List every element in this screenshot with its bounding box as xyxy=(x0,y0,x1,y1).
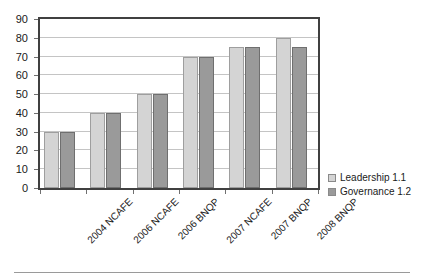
footer-divider xyxy=(14,272,410,273)
x-axis-tick-label: 2007 NCAFE xyxy=(224,196,273,245)
y-axis-tick-mark xyxy=(34,132,38,133)
bar xyxy=(153,94,168,188)
y-axis-tick-mark xyxy=(34,57,38,58)
y-axis-tick-mark xyxy=(34,113,38,114)
bar xyxy=(229,47,244,188)
chart-legend: Leadership 1.1Governance 1.2 xyxy=(328,171,420,199)
y-axis-tick-label: 70 xyxy=(16,51,28,62)
bar-group xyxy=(86,19,132,188)
y-axis-tick-label: 60 xyxy=(16,70,28,81)
bar xyxy=(183,57,198,188)
legend-entry[interactable]: Leadership 1.1 xyxy=(328,171,420,184)
grouped-bar-chart: 0102030405060708090 2004 NCAFE2006 NCAFE… xyxy=(0,0,422,278)
x-axis-tick-label: 2006 NCAFE xyxy=(131,196,180,245)
y-axis-tick-label: 50 xyxy=(16,89,28,100)
bar-group xyxy=(133,19,179,188)
y-axis-tick-label: 30 xyxy=(16,126,28,137)
y-axis-tick-label: 20 xyxy=(16,145,28,156)
legend-label: Leadership 1.1 xyxy=(340,172,406,183)
y-axis-tick-mark xyxy=(34,19,38,20)
x-axis-tick-label: 2007 BNQP xyxy=(269,196,315,242)
y-axis-tick-mark xyxy=(34,94,38,95)
bar xyxy=(276,38,291,188)
legend-entry[interactable]: Governance 1.2 xyxy=(328,185,420,198)
y-axis-tick-mark xyxy=(34,150,38,151)
y-axis-tick-label: 40 xyxy=(16,107,28,118)
bar xyxy=(199,57,214,188)
bar-group xyxy=(40,19,86,188)
bar-group xyxy=(225,19,271,188)
bar xyxy=(106,113,121,188)
bar-group xyxy=(179,19,225,188)
y-axis-tick-mark xyxy=(34,38,38,39)
bar xyxy=(137,94,152,188)
x-axis-tick-label: 2008 BNQP xyxy=(315,196,361,242)
x-axis-tick-label: 2006 BNQP xyxy=(176,196,222,242)
y-axis-tick-mark xyxy=(34,169,38,170)
x-axis: 2004 NCAFE2006 NCAFE2006 BNQP2007 NCAFE2… xyxy=(0,190,422,260)
bar xyxy=(90,113,105,188)
y-axis-tick-label: 10 xyxy=(16,164,28,175)
bar xyxy=(60,132,75,188)
legend-swatch-icon xyxy=(328,174,336,182)
bar-group xyxy=(272,19,318,188)
y-axis-tick-label: 80 xyxy=(16,32,28,43)
y-axis: 0102030405060708090 xyxy=(0,17,32,190)
bar xyxy=(245,47,260,188)
bars-layer xyxy=(40,19,318,188)
legend-swatch-icon xyxy=(328,188,336,196)
legend-label: Governance 1.2 xyxy=(340,186,411,197)
y-axis-tick-mark xyxy=(34,188,38,189)
bar xyxy=(44,132,59,188)
y-axis-tick-mark xyxy=(34,75,38,76)
x-axis-tick-label: 2004 NCAFE xyxy=(85,196,134,245)
y-axis-tick-label: 90 xyxy=(16,14,28,25)
bar xyxy=(292,47,307,188)
